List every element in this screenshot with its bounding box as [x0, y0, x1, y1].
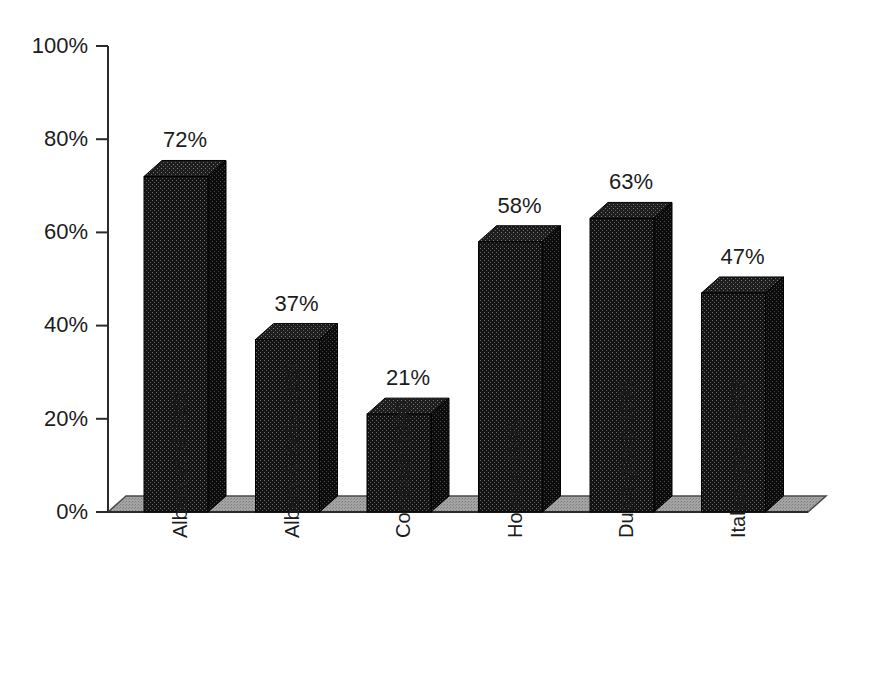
y-tick-label: 0% [56, 499, 88, 524]
bar-side-face [208, 160, 226, 512]
bar-value-label: 72% [163, 127, 207, 152]
y-tick-label: 100% [32, 33, 88, 58]
bar-side-face [431, 398, 449, 512]
y-tick-label: 60% [44, 219, 88, 244]
bar-side-face [766, 277, 784, 512]
y-tick-label: 80% [44, 126, 88, 151]
bar-value-label: 63% [609, 169, 653, 194]
y-tick-label: 40% [44, 312, 88, 337]
bars-group [144, 160, 784, 512]
y-axis-ticks: 0%20%40%60%80%100% [32, 33, 108, 524]
category-label: Albers et al 1985 [169, 388, 191, 538]
category-label: Cornblath 1990 [392, 401, 414, 538]
bar-side-face [320, 324, 338, 512]
chart-canvas: 0%20%40%60%80%100% 72%37%21%58%63%47% Al… [0, 0, 875, 673]
bar-side-face [543, 226, 561, 512]
category-label: Dutch group 1995 [615, 379, 637, 538]
bar-chart: 0%20%40%60%80%100% 72%37%21%58%63%47% Al… [0, 0, 875, 673]
y-tick-label: 20% [44, 406, 88, 431]
bar-side-face [654, 202, 672, 512]
category-label: Albers & Kelly 1989 [281, 363, 303, 538]
value-labels-group: 72%37%21%58%63%47% [163, 127, 765, 390]
bar-value-label: 37% [274, 291, 318, 316]
category-label: Italian group 1996 [727, 378, 749, 538]
bar-value-label: 47% [720, 244, 764, 269]
category-label: Ho et al 1995 [504, 419, 526, 538]
bar-value-label: 21% [386, 365, 430, 390]
bar-value-label: 58% [497, 193, 541, 218]
